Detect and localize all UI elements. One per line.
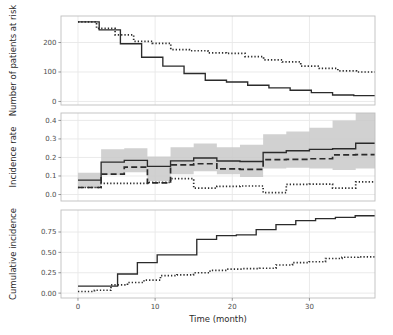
ylabel-patients-at-risk: Number of patients at risk <box>8 5 18 117</box>
ytick-label-cumulative-incidence-2: 0.50 <box>41 249 57 257</box>
ytick-label-cumulative-incidence-3: 0.75 <box>41 228 57 236</box>
panel-background-cumulative-incidence <box>61 210 375 298</box>
figure-root: 0100200Number of patients at risk0.00.10… <box>0 0 393 335</box>
ytick-label-patients-at-risk-0: 0 <box>52 98 56 106</box>
ytick-label-incidence-rate-2: 0.2 <box>45 154 56 162</box>
ytick-label-incidence-rate-4: 0.4 <box>45 117 57 125</box>
ytick-label-cumulative-incidence-0: 0.00 <box>41 290 57 298</box>
xtick-label-2: 20 <box>228 303 237 311</box>
panel-cumulative-incidence: 0.000.250.500.75Cumulative incidence <box>8 208 375 300</box>
ytick-label-patients-at-risk-2: 200 <box>43 39 56 47</box>
xtick-label-0: 0 <box>76 303 80 311</box>
ylabel-incidence-rate: Incidence rate <box>8 127 18 188</box>
ytick-label-patients-at-risk-1: 100 <box>43 68 56 76</box>
panel-incidence-rate: 0.00.10.20.30.4Incidence rate <box>8 113 375 201</box>
ytick-label-cumulative-incidence-1: 0.25 <box>41 269 57 277</box>
ytick-label-incidence-rate-1: 0.1 <box>45 172 56 180</box>
xtick-label-3: 30 <box>305 303 314 311</box>
xtick-label-1: 10 <box>151 303 160 311</box>
multi-panel-step-chart: 0100200Number of patients at risk0.00.10… <box>0 0 393 335</box>
panel-patients-at-risk: 0100200Number of patients at risk <box>8 5 375 117</box>
xlabel: Time (month) <box>188 314 247 324</box>
ytick-label-incidence-rate-0: 0.0 <box>45 191 56 199</box>
ylabel-cumulative-incidence: Cumulative incidence <box>8 208 18 300</box>
ytick-label-incidence-rate-3: 0.3 <box>45 135 56 143</box>
